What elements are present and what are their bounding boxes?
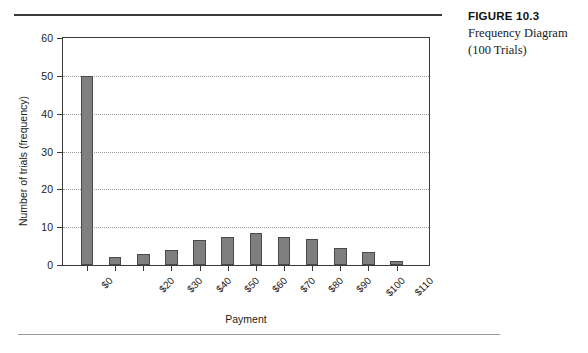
x-axis-tick-label: $20 — [157, 275, 177, 295]
bar — [221, 237, 234, 265]
y-axis-tick — [57, 38, 63, 39]
x-axis-tick-label: $100 — [384, 275, 408, 299]
gridline-y — [63, 152, 429, 153]
x-axis-tick — [312, 265, 313, 271]
y-axis-tick — [57, 189, 63, 190]
x-axis-tick — [87, 265, 88, 271]
plot-frame: 0102030405060$0$20$30$40$50$60$70$80$90$… — [62, 37, 430, 266]
y-axis-tick-label: 10 — [41, 221, 53, 233]
bar — [250, 233, 263, 265]
bottom-horizontal-rule — [18, 334, 500, 335]
y-axis-tick-label: 60 — [41, 32, 53, 44]
y-axis-tick-label: 50 — [41, 70, 53, 82]
x-axis-tick — [115, 265, 116, 271]
y-axis-tick — [57, 265, 63, 266]
x-axis-tick — [397, 265, 398, 271]
y-axis-tick-label: 0 — [47, 259, 53, 271]
x-axis-tick-label: $80 — [326, 275, 346, 295]
y-axis-tick-label: 20 — [41, 183, 53, 195]
bar — [306, 239, 319, 265]
x-axis-tick-label: $0 — [99, 275, 115, 291]
x-axis-tick — [256, 265, 257, 271]
gridline-y — [63, 189, 429, 190]
x-axis-tick-label: $90 — [354, 275, 374, 295]
x-axis-title: Payment — [62, 313, 430, 325]
gridline-y — [63, 76, 429, 77]
bar — [362, 252, 375, 265]
y-axis-tick-label: 30 — [41, 146, 53, 158]
bar — [278, 237, 291, 265]
y-axis-tick — [57, 76, 63, 77]
bar — [193, 240, 206, 265]
x-axis-tick — [228, 265, 229, 271]
y-axis-tick — [57, 152, 63, 153]
y-axis-tick — [57, 227, 63, 228]
bar — [137, 254, 150, 265]
x-axis-tick — [200, 265, 201, 271]
x-axis-tick — [340, 265, 341, 271]
x-axis-tick-label: $30 — [185, 275, 205, 295]
x-axis-tick-label: $60 — [270, 275, 290, 295]
gridline-y — [63, 227, 429, 228]
y-axis-title: Number of trials (frequency) — [17, 66, 29, 256]
y-axis-tick-label: 40 — [41, 108, 53, 120]
figure-chart-area: Number of trials (frequency) 01020304050… — [0, 0, 452, 353]
x-axis-tick-label: $40 — [213, 275, 233, 295]
x-axis-tick — [143, 265, 144, 271]
x-axis-tick-label: $70 — [298, 275, 318, 295]
bar — [334, 248, 347, 265]
x-axis-tick — [284, 265, 285, 271]
bar — [165, 250, 178, 265]
figure-caption: FIGURE 10.3 Frequency Diagram (100 Trial… — [468, 10, 580, 59]
y-axis-tick — [57, 114, 63, 115]
x-axis-tick — [368, 265, 369, 271]
figure-caption-text: Frequency Diagram (100 Trials) — [468, 25, 580, 59]
gridline-y — [63, 114, 429, 115]
bar — [109, 257, 122, 265]
bar — [81, 76, 94, 265]
plot-inner: 0102030405060$0$20$30$40$50$60$70$80$90$… — [63, 38, 429, 265]
figure-number-label: FIGURE 10.3 — [468, 10, 580, 22]
x-axis-tick — [171, 265, 172, 271]
x-axis-tick-label: $50 — [242, 275, 262, 295]
x-axis-tick-label: $110 — [412, 275, 435, 298]
